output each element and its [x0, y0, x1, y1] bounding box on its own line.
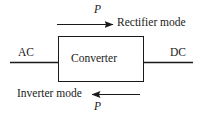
inverter-power-symbol: P	[94, 101, 101, 113]
ac-terminal-label: AC	[18, 47, 34, 59]
inverter-mode-label: Inverter mode	[17, 88, 82, 100]
rectifier-power-symbol: P	[94, 4, 101, 16]
dc-terminal-label: DC	[170, 47, 186, 59]
rectifier-mode-label: Rectifier mode	[117, 17, 186, 29]
converter-block-label: Converter	[71, 53, 117, 65]
converter-block-diagram: P Rectifier mode AC Converter DC Inverte…	[0, 0, 203, 119]
